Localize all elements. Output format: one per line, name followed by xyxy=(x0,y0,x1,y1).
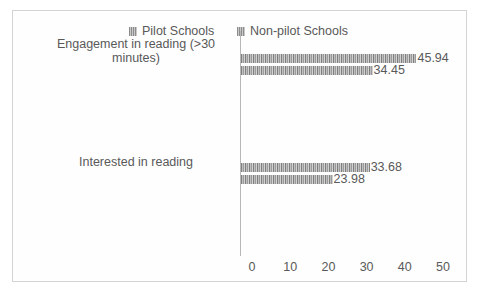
axis-tick-label: 10 xyxy=(283,260,297,274)
axis-tick-label: 0 xyxy=(249,260,256,274)
plot-area: Engagement in reading (>30 minutes) Inte… xyxy=(13,11,466,281)
chart-container: Pilot Schools Non-pilot Schools Engageme… xyxy=(12,10,467,282)
category-label-line: minutes) xyxy=(36,51,236,65)
category-label-line: Engagement in reading (>30 xyxy=(36,37,236,51)
bar-interested-pilot[interactable] xyxy=(241,163,370,172)
bar-engagement-pilot[interactable] xyxy=(241,54,416,63)
bar-value-label: 45.94 xyxy=(417,54,448,63)
category-label-interested: Interested in reading xyxy=(36,155,236,169)
value-axis-line xyxy=(240,31,241,256)
category-label-engagement: Engagement in reading (>30 minutes) xyxy=(36,37,236,65)
bar-value-label: 33.68 xyxy=(371,163,402,172)
bar-value-label: 34.45 xyxy=(374,66,405,75)
category-label-line: Interested in reading xyxy=(36,155,236,169)
bar-interested-non-pilot[interactable] xyxy=(241,175,333,184)
axis-tick-label: 40 xyxy=(398,260,412,274)
axis-tick-label: 20 xyxy=(321,260,335,274)
axis-tick-label: 50 xyxy=(436,260,450,274)
bar-engagement-non-pilot[interactable] xyxy=(241,66,373,75)
axis-tick-label: 30 xyxy=(360,260,374,274)
bar-value-label: 23.98 xyxy=(334,175,365,184)
